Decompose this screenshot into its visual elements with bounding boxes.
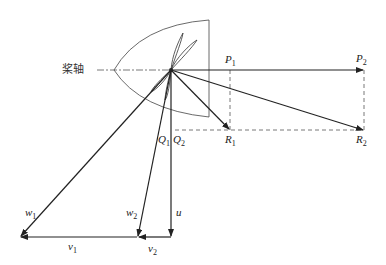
velocity-triangle-diagram: 桨轴 P1 P2 R1 R2 Q1 Q2 w1 w2 u v1 v2	[0, 0, 386, 265]
label-w1: w1	[25, 207, 36, 221]
label-v1: v1	[68, 241, 77, 255]
label-P2: P2	[356, 53, 367, 67]
label-u: u	[176, 207, 182, 218]
propeller-disc-outline	[114, 20, 209, 117]
label-w2: w2	[126, 207, 137, 221]
hub-point	[169, 68, 173, 72]
vector-arrows	[21, 70, 363, 237]
label-Q1: Q1	[158, 134, 170, 148]
axis-label: 桨轴	[62, 64, 84, 75]
label-R2: R2	[356, 134, 367, 148]
diagram-canvas	[0, 0, 386, 265]
label-P1: P1	[225, 54, 236, 68]
label-Q2: Q2	[173, 134, 185, 148]
vector-w2	[138, 70, 171, 236]
label-R1: R1	[225, 134, 236, 148]
label-v2: v2	[148, 243, 157, 257]
vector-w1	[21, 70, 171, 236]
